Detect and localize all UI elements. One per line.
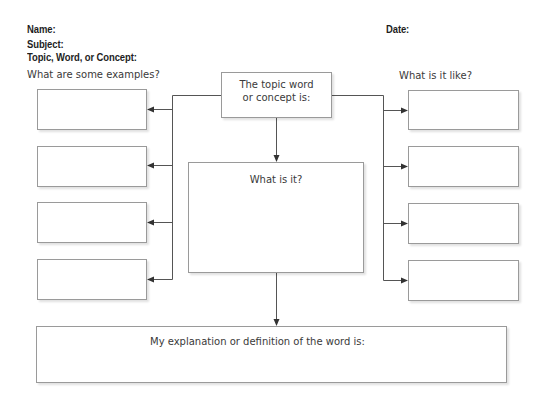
definition-label: My explanation or definition of the word… xyxy=(37,335,506,348)
like-box-4[interactable] xyxy=(408,260,519,301)
what-is-it-label: What is it? xyxy=(189,173,363,186)
what-is-it-like-caption: What is it like? xyxy=(399,70,472,81)
definition-box[interactable]: My explanation or definition of the word… xyxy=(36,326,507,383)
topic-word-concept-label: Topic, Word, or Concept: xyxy=(27,51,137,63)
like-box-1[interactable] xyxy=(408,90,519,130)
topic-word-box[interactable]: The topic word or concept is: xyxy=(221,72,332,118)
topic-box-line2: or concept is: xyxy=(222,91,331,104)
example-box-1[interactable] xyxy=(37,89,147,130)
like-box-2[interactable] xyxy=(408,146,519,187)
example-box-2[interactable] xyxy=(37,146,147,187)
subject-label: Subject: xyxy=(27,38,64,50)
name-label: Name: xyxy=(27,23,55,35)
what-is-it-box[interactable]: What is it? xyxy=(188,162,364,273)
like-box-3[interactable] xyxy=(408,203,519,244)
topic-box-line1: The topic word xyxy=(222,78,331,91)
example-box-4[interactable] xyxy=(37,259,147,300)
example-box-3[interactable] xyxy=(37,202,147,243)
examples-caption: What are some examples? xyxy=(27,69,160,80)
date-label: Date: xyxy=(386,23,409,35)
